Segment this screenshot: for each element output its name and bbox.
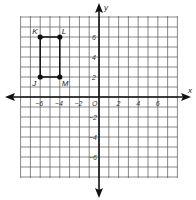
- x-axis-label: x: [187, 86, 193, 95]
- x-tick-label: −2: [74, 100, 82, 107]
- x-tick-label: −4: [55, 100, 63, 107]
- x-tick-label: 4: [136, 100, 140, 107]
- x-tick-label: 6: [156, 100, 160, 107]
- y-tick-label: 6: [92, 34, 96, 41]
- point-j: [38, 74, 43, 79]
- x-tick-label: −6: [35, 100, 43, 107]
- y-axis-label: y: [103, 3, 109, 12]
- point-label-m: M: [62, 79, 69, 88]
- point-label-k: K: [32, 27, 38, 36]
- coordinate-plane: y x O −6−4−2246642−2−4−6 KLMJ: [0, 0, 196, 200]
- y-tick-label: −2: [89, 114, 97, 121]
- origin-label: O: [92, 100, 98, 107]
- y-tick-label: −4: [89, 134, 97, 141]
- y-tick-label: −6: [89, 154, 97, 161]
- point-label-l: L: [62, 27, 66, 36]
- x-tick-label: 2: [116, 100, 121, 107]
- point-k: [38, 34, 43, 39]
- y-tick-label: 2: [91, 74, 96, 81]
- y-tick-label: 4: [92, 54, 96, 61]
